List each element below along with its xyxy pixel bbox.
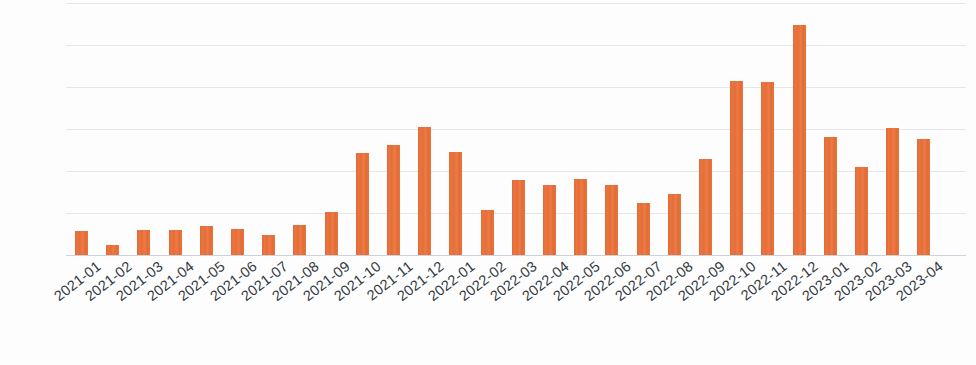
- bar-2023-02[interactable]: [855, 167, 868, 255]
- bar-2022-06[interactable]: [605, 185, 618, 255]
- bar-2021-01[interactable]: [75, 231, 88, 255]
- bar-2022-07[interactable]: [637, 203, 650, 255]
- bars-series: [0, 0, 976, 258]
- bar-2022-11[interactable]: [761, 82, 774, 255]
- bar-2022-09[interactable]: [699, 159, 712, 255]
- bar-2021-05[interactable]: [200, 226, 213, 255]
- bar-2021-03[interactable]: [137, 230, 150, 255]
- x-axis-labels: 2021-012021-022021-032021-042021-052021-…: [0, 258, 976, 365]
- bar-2022-08[interactable]: [668, 194, 681, 255]
- bar-2021-12[interactable]: [418, 127, 431, 255]
- bar-2023-04[interactable]: [917, 139, 930, 255]
- bar-2021-10[interactable]: [356, 153, 369, 255]
- bar-2022-02[interactable]: [481, 210, 494, 255]
- bar-2021-02[interactable]: [106, 245, 119, 255]
- bar-2022-12[interactable]: [793, 25, 806, 255]
- bar-2021-07[interactable]: [262, 235, 275, 255]
- bar-2022-04[interactable]: [543, 185, 556, 255]
- bar-2021-04[interactable]: [169, 230, 182, 255]
- bar-2022-05[interactable]: [574, 179, 587, 255]
- bar-2023-01[interactable]: [824, 137, 837, 255]
- bar-2022-10[interactable]: [730, 81, 743, 255]
- bar-2021-09[interactable]: [325, 212, 338, 255]
- bar-2021-08[interactable]: [293, 225, 306, 255]
- bar-2022-01[interactable]: [449, 152, 462, 255]
- bar-2023-03[interactable]: [886, 128, 899, 255]
- bar-chart: 2021-012021-022021-032021-042021-052021-…: [0, 0, 976, 365]
- bar-2021-11[interactable]: [387, 145, 400, 255]
- bar-2022-03[interactable]: [512, 180, 525, 255]
- plot-area: [0, 0, 976, 258]
- bar-2021-06[interactable]: [231, 229, 244, 255]
